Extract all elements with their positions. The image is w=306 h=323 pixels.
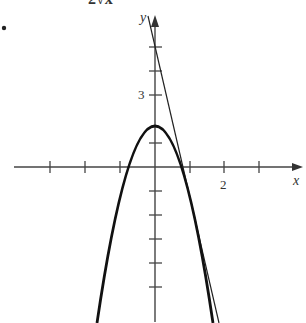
y-axis-label: y <box>138 10 147 25</box>
x-axis-arrow-icon <box>292 163 303 171</box>
y-tick-label-3: 3 <box>138 87 145 102</box>
graph-canvas: 2√x 2 x 3 y <box>0 0 306 323</box>
y-axis <box>149 15 162 322</box>
cropped-header-text: 2√x <box>88 0 113 7</box>
x-tick-label-2: 2 <box>220 177 227 192</box>
x-axis-label: x <box>292 173 300 188</box>
bullet-dot <box>2 26 6 30</box>
x-axis <box>14 161 303 173</box>
y-axis-arrow-icon <box>151 15 159 27</box>
